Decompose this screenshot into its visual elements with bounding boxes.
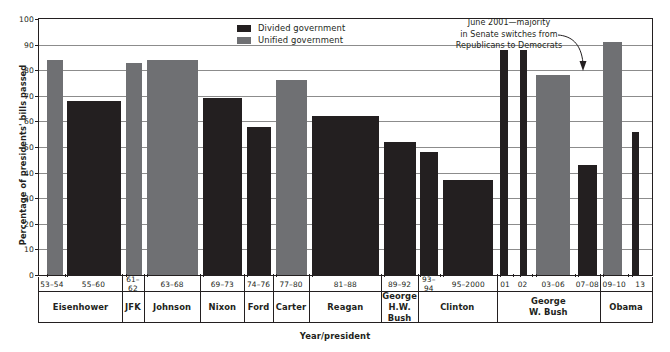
bar[interactable]	[384, 142, 416, 275]
x-tick-mark	[440, 274, 441, 277]
y-tick-mark	[35, 224, 39, 225]
year-cell-divider	[381, 277, 382, 291]
y-tick-label: 50	[24, 143, 34, 152]
legend-swatch-unified-icon	[237, 37, 251, 44]
president-name-line: H.W. Bush	[381, 302, 417, 324]
bar[interactable]	[126, 63, 142, 275]
x-axis-president-cell: GeorgeW. Bush	[497, 292, 600, 322]
y-tick-mark	[35, 249, 39, 250]
x-axis-president-cell: Johnson	[144, 292, 201, 322]
president-name-line: W. Bush	[529, 307, 568, 318]
x-axis-president-cell: Carter	[273, 292, 309, 322]
president-name-line: Eisenhower	[53, 302, 108, 313]
bar[interactable]	[67, 101, 120, 275]
x-tick-mark	[147, 274, 148, 277]
president-cell-divider	[381, 292, 382, 322]
x-axis-year-label: 55–60	[65, 277, 122, 291]
bar[interactable]	[500, 50, 508, 275]
president-cell-divider	[600, 292, 601, 322]
x-axis-year-label: 13	[628, 277, 652, 291]
bar[interactable]	[247, 127, 271, 275]
president-name-line: George	[531, 296, 566, 307]
y-tick-label: 0	[29, 271, 34, 280]
y-tick-mark	[35, 275, 39, 276]
legend-label-unified: Unified government	[258, 35, 343, 45]
y-tick-label: 100	[19, 15, 34, 24]
y-tick-mark	[35, 45, 39, 46]
year-cell-divider	[309, 277, 310, 291]
x-axis-year-label: 61–62	[122, 277, 144, 291]
y-tick-label: 10	[24, 245, 34, 254]
bar-chart-figure: Percentage of presidents' bills passed 0…	[0, 0, 670, 352]
x-tick-mark	[443, 274, 444, 277]
x-axis-year-label: 81–88	[309, 277, 381, 291]
x-axis-year-label: 63–68	[144, 277, 201, 291]
year-cell-divider	[122, 277, 123, 291]
x-tick-mark	[420, 274, 421, 277]
y-tick-mark	[35, 19, 39, 20]
x-tick-mark	[247, 274, 248, 277]
president-name-line: Reagan	[327, 302, 363, 313]
year-cell-divider	[200, 277, 201, 291]
bar[interactable]	[578, 165, 597, 275]
legend-item-unified: Unified government	[237, 35, 345, 45]
bar[interactable]	[276, 80, 307, 275]
x-axis-president-cell: Nixon	[200, 292, 244, 322]
x-tick-mark	[603, 274, 604, 277]
y-tick-label: 20	[24, 219, 34, 228]
x-axis-president-cell: Clinton	[418, 292, 497, 322]
year-cell-divider	[244, 277, 245, 291]
president-name-line: Clinton	[440, 302, 474, 313]
president-cell-divider	[144, 292, 145, 322]
x-axis-president-cell: Eisenhower	[39, 292, 122, 322]
bar[interactable]	[603, 42, 622, 275]
bar[interactable]	[420, 152, 437, 275]
x-tick-mark	[632, 274, 633, 277]
x-tick-mark	[47, 274, 48, 277]
x-tick-mark	[513, 274, 514, 277]
bar[interactable]	[47, 60, 63, 275]
x-axis-president-cell: Ford	[244, 292, 272, 322]
x-axis-year-label: 09–10	[600, 277, 628, 291]
x-tick-mark	[312, 274, 313, 277]
bar[interactable]	[147, 60, 198, 275]
legend: Divided government Unified government	[237, 23, 345, 47]
bar[interactable]	[520, 50, 528, 275]
legend-label-divided: Divided government	[258, 23, 345, 33]
president-cell-divider	[309, 292, 310, 322]
legend-item-divided: Divided government	[237, 23, 345, 33]
y-tick-label: 60	[24, 117, 34, 126]
bar[interactable]	[203, 98, 242, 275]
president-cell-divider	[418, 292, 419, 322]
x-axis-year-label: 93–94	[418, 277, 440, 291]
x-tick-mark	[276, 274, 277, 277]
y-tick-label: 40	[24, 168, 34, 177]
y-tick-label: 80	[24, 66, 34, 75]
x-tick-mark	[126, 274, 127, 277]
annotation-line-1: June 2001—majority	[433, 17, 585, 29]
bar[interactable]	[632, 132, 639, 275]
y-tick-label: 70	[24, 91, 34, 100]
president-name-line: JFK	[125, 302, 141, 313]
year-cell-divider	[497, 277, 498, 291]
y-tick-mark	[35, 121, 39, 122]
x-tick-mark	[578, 274, 579, 277]
x-axis-year-label: 53–54	[39, 277, 65, 291]
x-tick-mark	[628, 274, 629, 277]
x-axis-year-label: 95–2000	[440, 277, 497, 291]
president-cell-divider	[244, 292, 245, 322]
x-axis-title: Year/president	[0, 331, 670, 341]
x-axis-president-cell: Obama	[600, 292, 652, 322]
president-cell-divider	[497, 292, 498, 322]
x-tick-mark	[67, 274, 68, 277]
president-cell-divider	[200, 292, 201, 322]
bar[interactable]	[312, 116, 379, 275]
x-tick-mark	[532, 274, 533, 277]
y-tick-mark	[35, 96, 39, 97]
president-name-line: George	[382, 291, 417, 302]
x-axis-year-label: 69–73	[200, 277, 244, 291]
bar[interactable]	[443, 180, 493, 275]
x-tick-mark	[203, 274, 204, 277]
x-axis-year-label: 89–92	[381, 277, 417, 291]
bar[interactable]	[536, 75, 570, 275]
